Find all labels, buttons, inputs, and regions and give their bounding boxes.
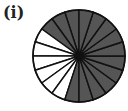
center-point: [76, 53, 82, 59]
fraction-circle: [0, 0, 128, 111]
